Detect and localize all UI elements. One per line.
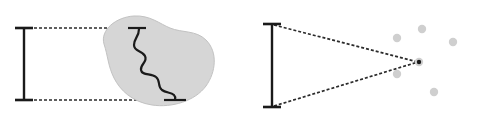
scatter-dot xyxy=(430,88,438,96)
figure-container xyxy=(0,0,480,115)
scatter-dot xyxy=(393,70,401,78)
irregular-region-blob xyxy=(103,16,214,106)
scatter-dots-group xyxy=(393,25,457,96)
upper-convergence-line xyxy=(274,25,418,62)
lower-convergence-line xyxy=(274,62,418,106)
measure-bar-left xyxy=(15,28,33,100)
right-panel xyxy=(263,24,457,107)
convergence-point xyxy=(417,60,421,64)
scatter-dot xyxy=(418,25,426,33)
diagram-canvas xyxy=(0,0,480,115)
scatter-dot xyxy=(393,34,401,42)
measure-bar-right xyxy=(263,24,281,107)
scatter-dot xyxy=(449,38,457,46)
left-panel xyxy=(15,16,214,106)
